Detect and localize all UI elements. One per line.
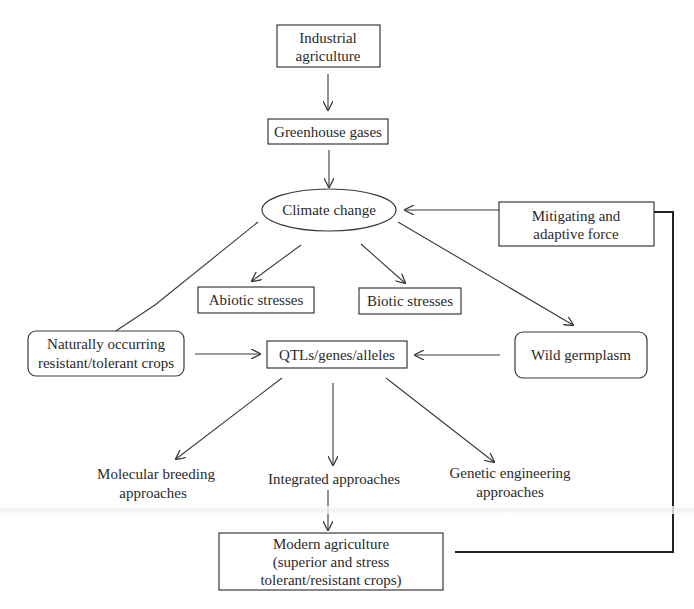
node-label: (superior and stress bbox=[273, 554, 390, 571]
node-label: Wild germplasm bbox=[531, 347, 631, 363]
node-label: Mitigating and bbox=[532, 208, 621, 224]
node-greenhouse-gases: Greenhouse gases bbox=[268, 119, 388, 144]
node-mitigating-force: Mitigating and adaptive force bbox=[499, 202, 654, 246]
node-label: resistant/tolerant crops bbox=[38, 355, 174, 371]
node-wild-germplasm: Wild germplasm bbox=[515, 332, 647, 378]
node-label: Climate change bbox=[282, 202, 376, 218]
node-label: agriculture bbox=[296, 48, 361, 64]
node-modern-agriculture: Modern agriculture (superior and stress … bbox=[219, 533, 443, 590]
node-label: Greenhouse gases bbox=[274, 124, 382, 140]
node-label: approaches bbox=[119, 485, 187, 501]
node-industrial-agriculture: Industrial agriculture bbox=[277, 25, 380, 67]
node-label: approaches bbox=[476, 484, 544, 500]
arrow bbox=[361, 244, 405, 283]
feedback-line bbox=[455, 212, 673, 552]
node-label: QTLs/genes/alleles bbox=[279, 347, 395, 363]
node-label: Genetic engineering bbox=[449, 465, 571, 481]
node-label: Industrial bbox=[299, 30, 357, 46]
node-biotic-stresses: Biotic stresses bbox=[359, 288, 461, 314]
node-genetic-engineering: Genetic engineering approaches bbox=[449, 465, 571, 500]
node-molecular-breeding: Molecular breeding approaches bbox=[97, 466, 215, 501]
node-climate-change: Climate change bbox=[262, 189, 396, 231]
node-label: Integrated approaches bbox=[268, 471, 400, 487]
node-label: tolerant/resistant crops) bbox=[260, 572, 401, 589]
node-label: Abiotic stresses bbox=[209, 292, 304, 308]
arrow bbox=[176, 378, 282, 459]
node-label: Molecular breeding bbox=[97, 466, 215, 482]
node-qtls: QTLs/genes/alleles bbox=[267, 341, 407, 368]
scan-artifact bbox=[0, 506, 694, 514]
node-naturally-occurring: Naturally occurring resistant/tolerant c… bbox=[28, 331, 184, 376]
node-label: Modern agriculture bbox=[273, 536, 390, 552]
node-integrated: Integrated approaches bbox=[268, 471, 400, 487]
arrow bbox=[386, 378, 494, 462]
arrow bbox=[252, 245, 301, 281]
node-label: Naturally occurring bbox=[47, 336, 165, 352]
flow-diagram: Industrial agriculture Greenhouse gases … bbox=[0, 0, 694, 609]
node-label: Biotic stresses bbox=[367, 293, 453, 309]
node-label: adaptive force bbox=[533, 226, 619, 242]
node-abiotic-stresses: Abiotic stresses bbox=[198, 287, 314, 313]
